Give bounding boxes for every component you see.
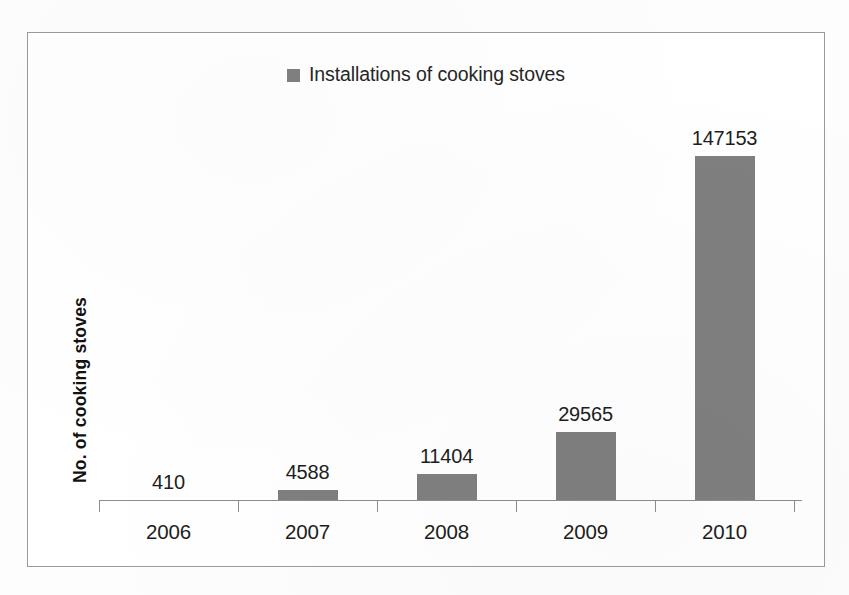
bar-value-label: 147153: [692, 128, 758, 148]
bar-column-2006: 410: [99, 41, 238, 501]
bar-column-2009: 29565: [516, 41, 655, 501]
bar-2010[interactable]: [695, 156, 755, 501]
x-tick-label-2009: 2009: [516, 520, 655, 544]
bar-column-2008: 11404: [377, 41, 516, 501]
bar-column-2010: 147153: [655, 41, 794, 501]
x-tick-label-2008: 2008: [377, 520, 516, 544]
x-axis-tick: [655, 501, 656, 512]
x-axis-tick: [377, 501, 378, 512]
x-axis-line: [99, 500, 802, 501]
x-axis-tick: [516, 501, 517, 512]
bar-value-label: 4588: [286, 462, 330, 482]
x-axis-tick-labels: 20062007200820092010: [99, 520, 802, 560]
bar-value-label: 11404: [420, 446, 473, 466]
bar-column-2007: 4588: [238, 41, 377, 501]
x-tick-label-2007: 2007: [238, 520, 377, 544]
scanned-page: Installations of cooking stoves No. of c…: [0, 0, 849, 595]
plot-area: 41045881140429565147153: [99, 41, 801, 501]
y-axis-title-text: No. of cooking stoves: [70, 297, 91, 483]
x-axis-tick: [238, 501, 239, 512]
bar-value-label: 29565: [558, 404, 613, 424]
x-axis-tick-end: [794, 501, 795, 512]
x-tick-label-2010: 2010: [655, 520, 794, 544]
x-axis-tick: [99, 501, 100, 512]
x-tick-label-2006: 2006: [99, 520, 238, 544]
bar-value-label: 410: [152, 472, 185, 492]
chart-frame: Installations of cooking stoves No. of c…: [27, 32, 825, 567]
bar-2009[interactable]: [556, 432, 616, 501]
bar-2008[interactable]: [417, 474, 477, 501]
y-axis-title: No. of cooking stoves: [70, 0, 91, 183]
